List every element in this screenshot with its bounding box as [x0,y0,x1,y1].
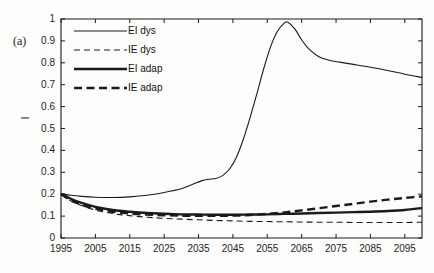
y-tick-label: 0.3 [27,167,55,177]
y-tick-label: 0.7 [27,80,55,90]
plot-frame [61,19,422,238]
y-tick-label: 0.1 [27,211,55,221]
y-tick-label: 1 [27,14,55,24]
line-chart [0,0,434,273]
series-line-ie-dys [61,194,422,222]
y-tick-label: 0.8 [27,58,55,68]
y-tick-label: 0 [27,233,55,243]
figure-panel-a: (a) I 00.10.20.30.40.50.60.70.80.91 1995… [0,0,434,273]
y-tick-label: 0.9 [27,36,55,46]
legend-label-ie-adap: IE adap [128,83,162,93]
legend-label-ei-adap: EI adap [128,64,162,74]
y-tick-label: 0.2 [27,189,55,199]
y-tick-label: 0.4 [27,145,55,155]
legend-label-ie-dys: IE dys [128,45,156,55]
legend-label-ei-dys: EI dys [128,26,156,36]
y-tick-label: 0.5 [27,124,55,134]
x-tick-label: 2095 [385,244,425,254]
series-line-ei-dys [61,22,422,198]
y-tick-label: 0.6 [27,102,55,112]
